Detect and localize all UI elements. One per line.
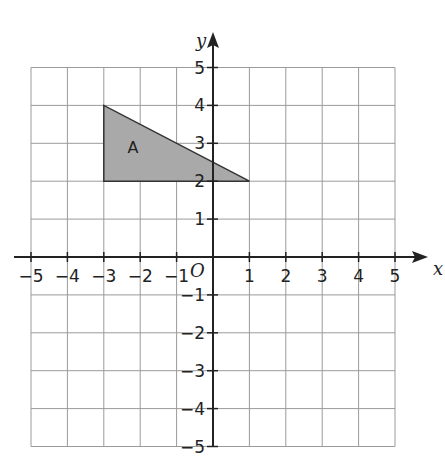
y-tick-label: −1 [180, 285, 205, 305]
axes [14, 32, 428, 446]
x-tick-label: 3 [317, 266, 328, 286]
x-tick-label: 4 [353, 266, 364, 286]
coordinate-grid: A −5−4−3−2−112345 54321−1−2−3−4−5 x y O [0, 0, 445, 459]
x-tick-label: −2 [128, 266, 153, 286]
x-tick-label: −3 [91, 266, 116, 286]
x-tick-label: 1 [244, 266, 255, 286]
y-tick-label: 3 [194, 133, 205, 153]
origin-label: O [190, 260, 205, 281]
x-tick-label: −5 [18, 266, 43, 286]
y-tick-label: 1 [194, 209, 205, 229]
x-tick-label: 2 [280, 266, 291, 286]
x-tick-labels: −5−4−3−2−112345 [18, 266, 400, 286]
x-axis-label: x [433, 258, 443, 279]
y-tick-label: 2 [194, 171, 205, 191]
y-tick-label: 5 [194, 58, 205, 78]
y-axis-label: y [195, 30, 207, 51]
y-tick-label: −4 [180, 399, 205, 419]
y-tick-label: −3 [180, 361, 205, 381]
y-tick-label: −5 [180, 437, 205, 457]
y-tick-label: −2 [180, 323, 205, 343]
x-tick-label: −1 [164, 266, 189, 286]
x-tick-label: 5 [390, 266, 401, 286]
x-tick-label: −4 [55, 266, 80, 286]
y-tick-label: 4 [194, 95, 205, 115]
triangle-a-label: A [127, 138, 138, 157]
